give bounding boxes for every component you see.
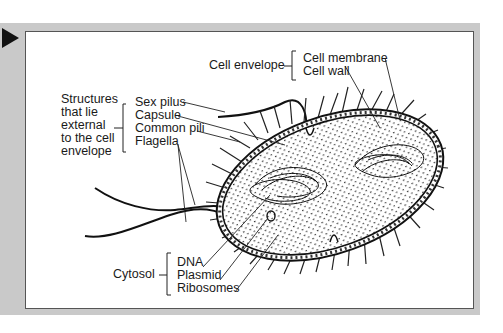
label-flagella: Flagella	[135, 135, 204, 148]
label-cell-envelope: Cell envelope	[209, 59, 285, 72]
external-items: Sex pilus Capsule Common pili Flagella	[135, 96, 204, 148]
envelope-items: Cell membrane Cell wall	[303, 52, 388, 78]
label-cytosol: Cytosol	[113, 268, 155, 281]
label-cell-wall: Cell wall	[303, 65, 388, 78]
bacterial-cell-illustration	[0, 0, 503, 333]
external-heading: Structures that lie external to the cell…	[61, 93, 118, 158]
label-ribosomes: Ribosomes	[177, 282, 240, 295]
cytosol-items: DNA Plasmid Ribosomes	[177, 256, 240, 295]
heading-line: envelope	[61, 145, 118, 158]
